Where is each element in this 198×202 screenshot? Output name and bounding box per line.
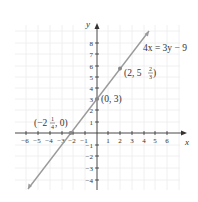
point-label-text: ) bbox=[153, 68, 156, 79]
x-tick-label: −6 bbox=[21, 137, 29, 145]
point-2-5-2-3 bbox=[118, 67, 122, 71]
x-tick-label: 5 bbox=[153, 137, 157, 145]
y-tick-label: 6 bbox=[90, 63, 94, 71]
point-label-text: (−2 bbox=[34, 118, 48, 129]
point-label-0-3: (0, 3) bbox=[101, 94, 122, 105]
y-axis-arrow-icon bbox=[95, 23, 100, 29]
fraction-denominator: 3 bbox=[149, 74, 152, 80]
x-tick-label: 3 bbox=[130, 137, 134, 145]
y-tick-label: −4 bbox=[86, 177, 94, 185]
y-tick-label: −1 bbox=[86, 142, 94, 150]
x-tick-label: 1 bbox=[106, 137, 110, 145]
y-tick-label: 1 bbox=[90, 119, 94, 127]
fraction-numerator: 1 bbox=[51, 116, 54, 122]
point-label-neg-2-1-4-0: (−2 1 4 , 0) bbox=[34, 116, 68, 130]
x-tick-label: −4 bbox=[45, 137, 53, 145]
y-tick-label: −3 bbox=[86, 165, 94, 173]
x-tick-labels: −6 −5 −4 −3 −2 −1 1 2 3 4 5 6 bbox=[21, 137, 169, 145]
x-tick-label: 2 bbox=[118, 137, 122, 145]
y-tick-label: −2 bbox=[86, 153, 94, 161]
y-tick-label: 4 bbox=[90, 85, 94, 93]
x-axis-label: x bbox=[184, 137, 189, 147]
x-tick-label: 6 bbox=[165, 137, 169, 145]
y-tick-label: 8 bbox=[90, 40, 94, 48]
x-tick-label: 4 bbox=[142, 137, 146, 145]
x-axis-arrow-icon bbox=[181, 131, 187, 136]
point-label-2-5-2-3: (2, 5 2 3 ) bbox=[124, 66, 156, 80]
fraction-numerator: 2 bbox=[149, 66, 152, 72]
y-tick-label: 7 bbox=[90, 51, 94, 59]
x-tick-label: −5 bbox=[33, 137, 41, 145]
y-axis-label: y bbox=[85, 19, 90, 29]
y-tick-label: 5 bbox=[90, 74, 94, 82]
y-tick-label: 3 bbox=[90, 96, 94, 104]
chart-canvas: −6 −5 −4 −3 −2 −1 1 2 3 4 5 6 8 7 6 5 4 … bbox=[0, 0, 198, 202]
point-x-intercept bbox=[69, 131, 73, 135]
point-label-text: (2, 5 bbox=[124, 68, 142, 79]
x-tick-label: −2 bbox=[68, 137, 76, 145]
point-label-text: , 0) bbox=[55, 118, 68, 129]
equation-label: 4x = 3y − 9 bbox=[143, 43, 187, 53]
point-y-intercept bbox=[95, 97, 99, 101]
fraction-denominator: 4 bbox=[51, 124, 54, 130]
